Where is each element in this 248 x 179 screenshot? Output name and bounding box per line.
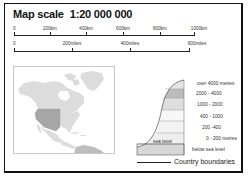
band-label-over-4000: over 4000 metres (197, 81, 234, 86)
country-boundary-line-icon (137, 162, 171, 163)
band-label-200-400: 200 -400 (202, 125, 221, 130)
band-label-2000-4000: 2000 - 4000 (196, 91, 222, 96)
band-label-below-sea-level: below sea level (192, 147, 225, 152)
band-label-0-200: 0 - 200 metres (206, 136, 237, 141)
elevation-key (0, 0, 248, 179)
band-label-400-1000: 400 - 1000 (200, 114, 223, 119)
sea-level-label: sea level (153, 139, 172, 144)
country-boundaries-label: Country boundaries (174, 158, 235, 165)
band-label-1000-2000: 1000 - 2000 (197, 102, 223, 107)
